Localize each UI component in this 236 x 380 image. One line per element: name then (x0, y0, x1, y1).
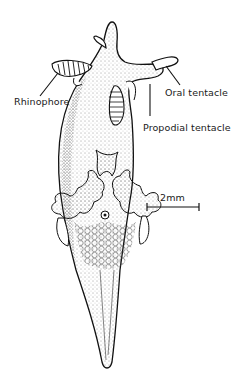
propodial-tentacle-label: Propodial tentacle (143, 123, 231, 133)
rhinophore-label: Rhinophore (14, 97, 70, 107)
oral-tentacle-leader (166, 66, 180, 85)
sea-slug-illustration (0, 0, 236, 380)
figure-canvas: Rhinophore Oral tentacle Propodial tenta… (0, 0, 236, 380)
scale-bar-label: 2mm (160, 193, 185, 203)
oral-tentacle-label: Oral tentacle (165, 88, 228, 98)
rhinophore-leader (40, 73, 58, 96)
